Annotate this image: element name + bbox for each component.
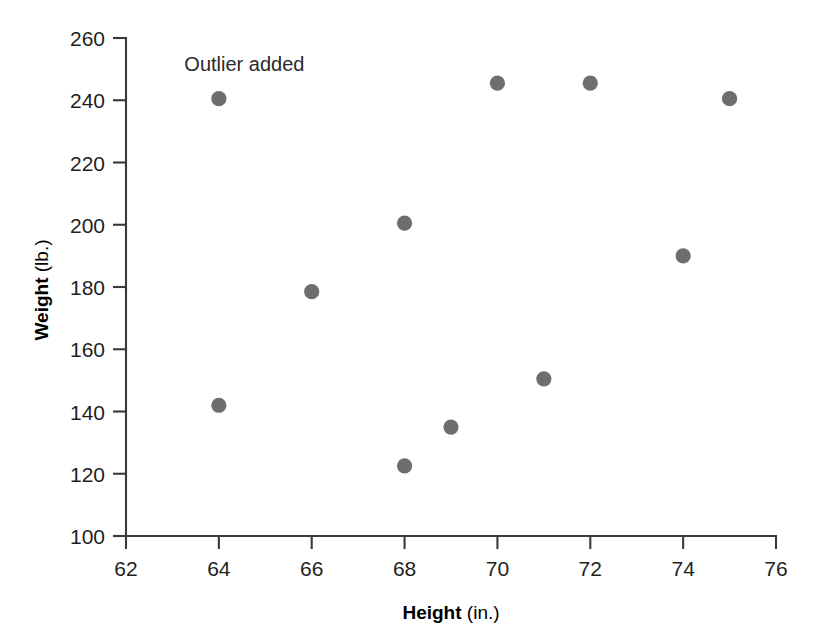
data-point xyxy=(397,458,412,473)
data-point xyxy=(211,91,226,106)
y-tick-label: 120 xyxy=(70,463,105,486)
y-tick-label: 140 xyxy=(70,401,105,424)
x-axis-title-units: (in.) xyxy=(467,602,500,623)
y-axis-title-units: (lb.) xyxy=(31,240,52,273)
x-tick-label: 76 xyxy=(764,557,787,580)
y-tick-label: 260 xyxy=(70,27,105,50)
x-axis-title-main: Height xyxy=(402,602,462,623)
y-axis-title: Weight (lb.) xyxy=(31,240,52,341)
x-tick-label: 72 xyxy=(579,557,602,580)
x-tick-label: 64 xyxy=(207,557,231,580)
data-point xyxy=(490,76,505,91)
x-axis-title: Height (in.) xyxy=(402,602,499,623)
x-tick-label: 62 xyxy=(114,557,137,580)
plot-area: 100 120 140 160 180 200 220 240 260 62 6… xyxy=(0,0,818,643)
x-tick-label: 70 xyxy=(486,557,509,580)
data-points-group xyxy=(211,76,737,474)
x-tick-label: 66 xyxy=(300,557,323,580)
x-tick-label: 68 xyxy=(393,557,416,580)
y-tick-label: 220 xyxy=(70,152,105,175)
y-axis-tick-labels: 100 120 140 160 180 200 220 240 260 xyxy=(70,27,105,548)
data-point xyxy=(722,91,737,106)
y-tick-label: 200 xyxy=(70,214,105,237)
data-point xyxy=(536,371,551,386)
data-point xyxy=(211,398,226,413)
y-axis-ticks xyxy=(113,38,126,536)
outlier-annotation-label: Outlier added xyxy=(184,53,304,75)
y-tick-label: 180 xyxy=(70,276,105,299)
y-tick-label: 160 xyxy=(70,338,105,361)
x-axis-ticks xyxy=(126,536,776,549)
y-axis-title-main: Weight xyxy=(31,277,52,341)
scatter-chart: 100 120 140 160 180 200 220 240 260 62 6… xyxy=(0,0,818,643)
data-point xyxy=(443,419,458,434)
x-tick-label: 74 xyxy=(671,557,695,580)
y-tick-label: 100 xyxy=(70,525,105,548)
data-point xyxy=(676,248,691,263)
y-tick-label: 240 xyxy=(70,89,105,112)
data-point xyxy=(583,76,598,91)
data-point xyxy=(304,284,319,299)
x-axis-tick-labels: 62 64 66 68 70 72 74 76 xyxy=(114,557,787,580)
data-point xyxy=(397,216,412,231)
